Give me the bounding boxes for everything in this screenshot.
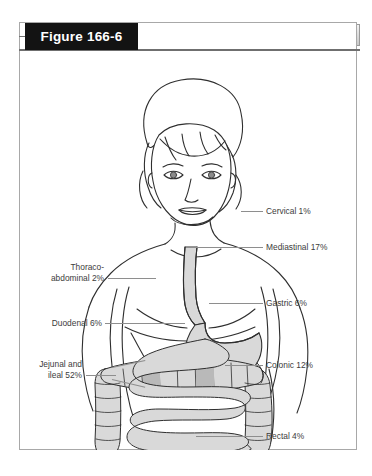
torso-left (122, 287, 135, 423)
leader-gastric (209, 303, 263, 304)
leader-rectal (196, 436, 263, 437)
leader-cervical (241, 211, 263, 212)
label-jejunal-ileal: Jejunal and ileal 52% (14, 359, 82, 380)
neck-right (210, 221, 224, 243)
label-rectal: Rectal 4% (266, 431, 304, 442)
leader-jejunal-ileal (86, 375, 116, 376)
costal-left (137, 309, 187, 328)
leader-mediastinal (186, 247, 263, 248)
figure-root: Figure 166-6 (0, 0, 372, 476)
figure-number-box: Figure 166-6 (25, 23, 138, 50)
label-mediastinal: Mediastinal 17% (266, 242, 327, 253)
neck-left (165, 223, 175, 244)
label-colonic: Colonic 12% (266, 360, 313, 371)
label-gastric: Gastric 6% (266, 298, 307, 309)
leader-colonic (225, 365, 263, 366)
label-duodenal: Duodenal 6% (28, 318, 102, 329)
esophagus (184, 247, 206, 325)
label-thoraco-abdominal: Thoraco- abdominal 2% (28, 262, 104, 283)
costal-right (209, 309, 255, 328)
leader-thoraco-abdominal (108, 278, 156, 279)
leader-duodenal (105, 323, 185, 324)
label-cervical: Cervical 1% (266, 206, 311, 217)
figure-number-label: Figure 166-6 (41, 29, 123, 44)
